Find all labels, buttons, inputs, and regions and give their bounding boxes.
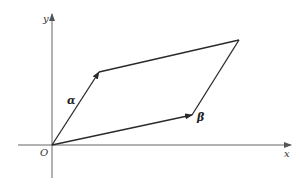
parallelogram-diagram: O x y α β	[0, 0, 301, 189]
vector-alpha-label: α	[67, 94, 76, 107]
side-right	[192, 40, 239, 115]
vector-beta	[52, 115, 192, 145]
x-axis-label: x	[284, 148, 290, 159]
vector-beta-label: β	[196, 111, 205, 124]
origin-label: O	[40, 147, 48, 158]
side-top	[99, 40, 239, 72]
vector-alpha	[52, 72, 99, 145]
y-axis-label: y	[42, 13, 49, 24]
